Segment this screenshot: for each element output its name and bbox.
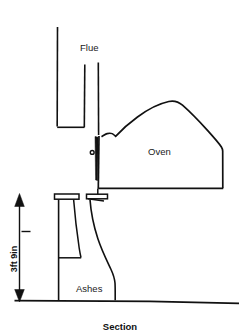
flue-inner-right-wall xyxy=(84,65,85,128)
figure-container: Flue Oven Ashes 3ft 9in Section xyxy=(0,0,240,336)
oven-dome-outline xyxy=(102,101,223,188)
damper-wedge-shape xyxy=(95,137,98,181)
arrow-up-icon xyxy=(15,194,25,207)
figure-caption: Section xyxy=(103,321,138,332)
pivot-dot-icon xyxy=(90,151,94,155)
lintel-slab-left xyxy=(55,194,80,199)
lintel-slabs xyxy=(55,189,108,201)
oven-throat-left-wall xyxy=(98,136,99,188)
section-drawing: Flue Oven Ashes 3ft 9in Section xyxy=(0,0,240,336)
oven-damper-wedge xyxy=(90,137,98,181)
ground-line xyxy=(15,301,240,304)
ash-pit-left-taper xyxy=(74,199,81,257)
dimension-label: 3ft 9in xyxy=(9,246,19,273)
oven-label: Oven xyxy=(148,146,171,157)
ashes-label: Ashes xyxy=(76,283,103,294)
flue-label: Flue xyxy=(80,42,98,53)
oven-structure xyxy=(98,101,223,188)
lintel-slab-right xyxy=(87,194,108,199)
